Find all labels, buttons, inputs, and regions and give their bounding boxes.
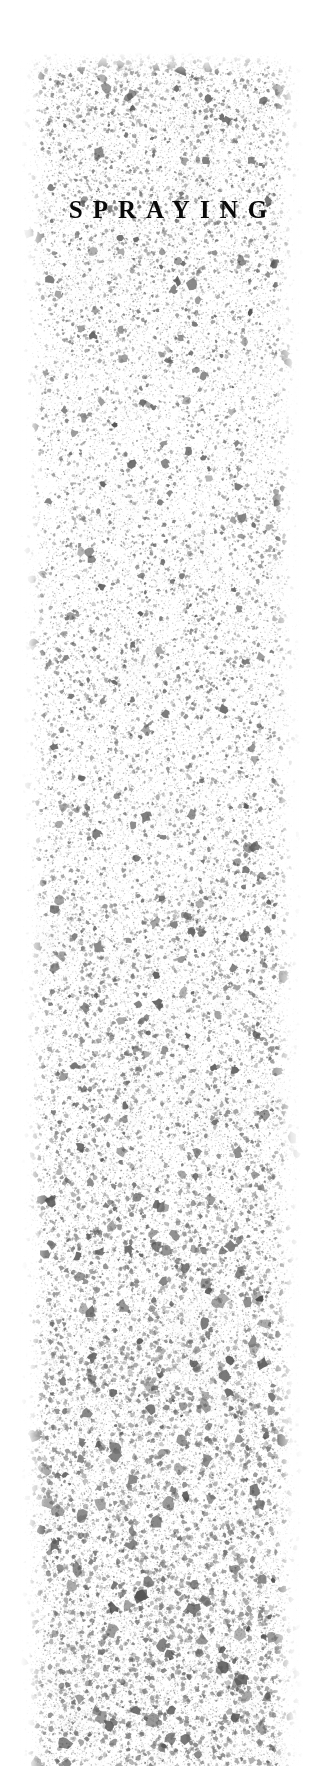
ink-spatter-band xyxy=(20,52,304,1766)
page-title: SPRAYING xyxy=(0,194,336,226)
page-canvas: SPRAYING xyxy=(0,0,336,1766)
spatter-texture-canvas xyxy=(20,52,304,1766)
